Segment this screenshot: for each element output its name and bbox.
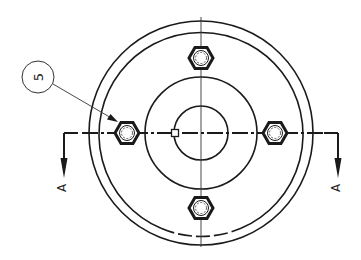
leader-arrowhead-icon <box>107 114 118 122</box>
section-label-right: A <box>329 183 343 192</box>
bolt-right-icon <box>263 123 287 144</box>
bolt-top-icon <box>189 48 213 69</box>
key-square-marker <box>172 130 179 137</box>
section-arrow-right <box>335 133 342 178</box>
bolt-bottom-icon <box>189 198 213 219</box>
technical-drawing: A A 5 <box>0 0 361 260</box>
balloon-number: 5 <box>31 73 46 81</box>
section-label-left: A <box>55 183 69 192</box>
section-arrow-left <box>61 133 68 178</box>
bolt-left-icon <box>115 123 139 144</box>
